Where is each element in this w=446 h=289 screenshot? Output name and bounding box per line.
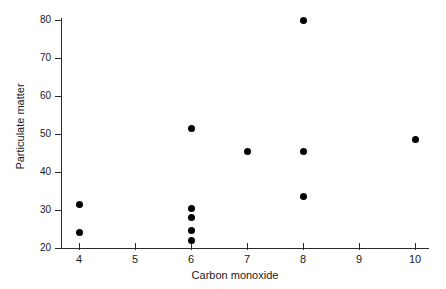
x-tick-label-text: 6: [178, 253, 204, 265]
y-tick-label-text: 50: [26, 129, 51, 139]
y-tick-label: 80: [26, 15, 51, 25]
x-tick-label: 5: [122, 253, 148, 265]
x-tick-label-text: 5: [122, 253, 148, 265]
x-tick-label: 10: [402, 253, 428, 265]
y-tick-label: 50: [26, 129, 51, 139]
y-tick-mark: [55, 248, 62, 249]
data-point: [412, 136, 419, 143]
y-axis-title: Particulate matter: [14, 67, 27, 187]
x-tick-label: 4: [66, 253, 92, 265]
x-tick-label: 7: [234, 253, 260, 265]
y-tick-label-text: 30: [26, 205, 51, 215]
data-point: [188, 125, 195, 132]
data-point: [188, 237, 195, 244]
y-tick-label: 40: [26, 167, 51, 177]
x-tick-label-text: 7: [234, 253, 260, 265]
y-tick-label: 70: [26, 53, 51, 63]
x-axis-line: [61, 248, 429, 249]
data-point: [188, 205, 195, 212]
x-axis-title: Carbon monoxide: [0, 269, 446, 282]
x-tick-label: 9: [346, 253, 372, 265]
y-tick-label-text: 60: [26, 91, 51, 101]
data-point: [76, 229, 83, 236]
data-point: [300, 193, 307, 200]
x-tick-label: 8: [290, 253, 316, 265]
plot-data-area: [61, 14, 429, 248]
y-tick-label-text: 70: [26, 53, 51, 63]
data-point: [188, 227, 195, 234]
x-tick-label-text: 10: [402, 253, 428, 265]
y-tick-label-text: 20: [26, 243, 51, 253]
data-point: [244, 148, 251, 155]
scatter-plot: 20304050607080 45678910 Particulate matt…: [0, 0, 446, 289]
y-tick-label: 30: [26, 205, 51, 215]
x-tick-label-text: 4: [66, 253, 92, 265]
data-point: [188, 214, 195, 221]
data-point: [300, 17, 307, 24]
x-tick-label-text: 8: [290, 253, 316, 265]
x-tick-label: 6: [178, 253, 204, 265]
data-point: [300, 148, 307, 155]
y-tick-label-text: 80: [26, 15, 51, 25]
y-tick-label: 20: [26, 243, 51, 253]
data-point: [76, 201, 83, 208]
y-tick-label-text: 40: [26, 167, 51, 177]
x-axis-title-text: Carbon monoxide: [168, 269, 279, 281]
y-tick-label: 60: [26, 91, 51, 101]
x-tick-label-text: 9: [346, 253, 372, 265]
